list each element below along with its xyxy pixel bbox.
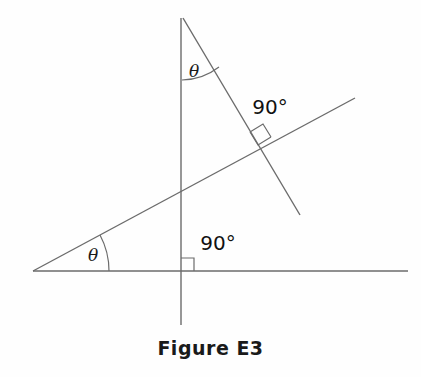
angle-arc-theta-bottom <box>100 235 109 271</box>
ascending-transversal-line <box>33 98 355 271</box>
theta-label-top: θ <box>189 61 199 81</box>
geometry-diagram: θ θ 90° 90° <box>0 0 421 377</box>
right-angle-label-top: 90° <box>252 95 287 119</box>
figure-e3-container: θ θ 90° 90° Figure E3 <box>0 0 421 377</box>
right-angle-square-bottom <box>181 258 194 271</box>
right-angle-label-bottom: 90° <box>200 231 235 255</box>
figure-caption: Figure E3 <box>0 337 421 359</box>
theta-label-bottom: θ <box>88 245 98 265</box>
right-angle-square-top <box>250 132 271 145</box>
